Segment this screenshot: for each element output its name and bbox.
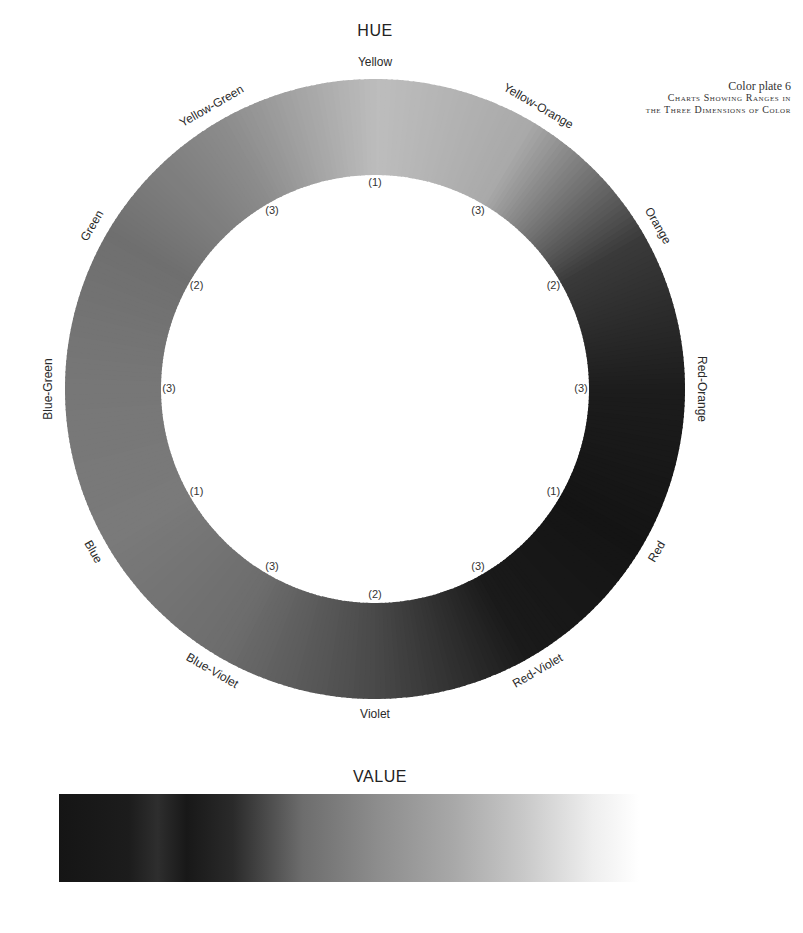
hue-label-red-orange: Red-Orange: [695, 356, 709, 422]
range-marker: (3): [471, 560, 484, 572]
hue-label-blue: Blue: [81, 538, 105, 566]
range-marker: (1): [190, 485, 203, 497]
value-gradient-bar: [59, 794, 639, 882]
range-marker: (1): [547, 485, 560, 497]
hue-label-blue-green: Blue-Green: [41, 358, 55, 419]
range-marker: (2): [547, 279, 560, 291]
range-marker: (2): [190, 279, 203, 291]
hue-label-green: Green: [78, 208, 107, 244]
range-marker: (3): [265, 560, 278, 572]
hue-label-yellow: Yellow: [358, 55, 393, 69]
range-marker: (3): [265, 204, 278, 216]
value-title: VALUE: [353, 768, 407, 786]
hue-wheel: YellowYellow-OrangeOrangeRed-OrangeRedRe…: [0, 0, 803, 760]
hue-label-violet: Violet: [360, 707, 390, 721]
hue-label-red: Red: [645, 539, 668, 565]
range-marker: (3): [574, 382, 587, 394]
range-marker: (2): [368, 588, 381, 600]
range-marker: (3): [471, 204, 484, 216]
range-marker: (1): [368, 176, 381, 188]
range-marker: (3): [162, 382, 175, 394]
